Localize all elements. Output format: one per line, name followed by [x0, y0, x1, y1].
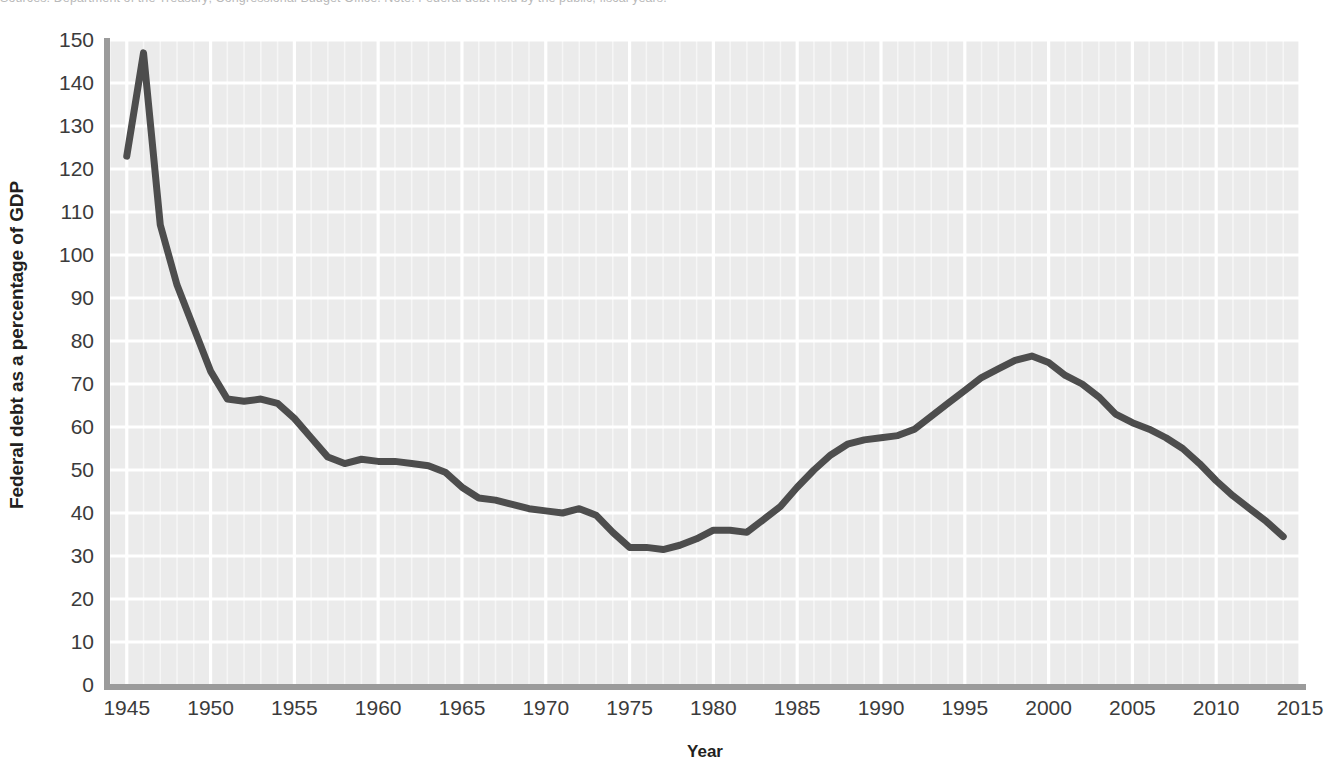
x-axis-spine [104, 684, 1306, 690]
x-axis-title: Year [110, 742, 1300, 762]
horizontal-major-gridlines [110, 40, 1300, 642]
y-tick-label: 120 [8, 158, 94, 179]
y-tick-label: 40 [8, 502, 94, 523]
figure-caption-text: Sources: Department of the Treasury; Con… [0, 0, 1336, 5]
y-tick-label: 10 [8, 631, 94, 652]
y-tick-label: 140 [8, 72, 94, 93]
plot-area [110, 40, 1300, 685]
y-axis-spine [104, 38, 110, 689]
figure-caption-cropped: Sources: Department of the Treasury; Con… [0, 0, 1336, 5]
y-tick-label: 80 [8, 330, 94, 351]
y-tick-label: 100 [8, 244, 94, 265]
y-tick-label: 150 [8, 29, 94, 50]
y-tick-label: 20 [8, 588, 94, 609]
vertical-major-gridlines [127, 40, 1300, 685]
y-tick-label: 60 [8, 416, 94, 437]
y-tick-label: 30 [8, 545, 94, 566]
vertical-minor-gridlines [110, 40, 1300, 685]
y-tick-label: 0 [8, 674, 94, 695]
y-tick-label: 50 [8, 459, 94, 480]
y-tick-label: 70 [8, 373, 94, 394]
plot-svg [110, 40, 1300, 685]
y-tick-label: 110 [8, 201, 94, 222]
y-tick-label: 130 [8, 115, 94, 136]
x-tick-label: 2015 [1240, 697, 1336, 718]
chart-figure: Sources: Department of the Treasury; Con… [0, 0, 1336, 775]
y-tick-label: 90 [8, 287, 94, 308]
